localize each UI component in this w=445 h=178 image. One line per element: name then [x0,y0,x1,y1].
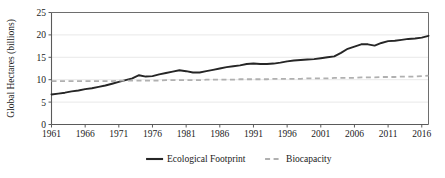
y-tick-label: 20 [37,30,47,40]
x-tick-label: 1976 [143,129,162,139]
y-tick-label: 10 [37,75,47,85]
x-tick-label: 1986 [210,129,229,139]
legend-label: Biocapacity [286,154,332,164]
x-tick-label: 2016 [412,129,431,139]
x-tick-label: 1971 [109,129,128,139]
x-tick-label: 2011 [379,129,398,139]
y-axis-title-text: Global Hectares (billions) [6,19,17,118]
data-series [52,36,429,95]
legend-item-ecological-footprint: Ecological Footprint [146,154,246,164]
x-axis-tick-labels: 1961196619711976198119861991199620012006… [42,129,432,139]
y-axis-tick-labels: 0510152025 [37,8,47,130]
x-tick-label: 2001 [311,129,330,139]
x-tick-label: 1961 [42,129,61,139]
x-tick-label: 1991 [244,129,263,139]
legend-item-biocapacity: Biocapacity [265,154,332,164]
series-line-ecological-footprint [52,36,429,95]
chart-legend: Ecological FootprintBiocapacity [146,154,332,164]
y-tick-label: 5 [41,98,46,108]
x-tick-label: 2006 [345,129,364,139]
ecological-footprint-chart: 0510152025 19611966197119761981198619911… [0,0,445,178]
y-tick-label: 15 [37,53,47,63]
plot-frame [52,13,429,125]
y-axis-title: Global Hectares (billions) [6,19,17,118]
y-tick-label: 25 [37,8,47,18]
x-tick-label: 1996 [278,129,297,139]
legend-label: Ecological Footprint [167,154,246,164]
x-tick-label: 1981 [177,129,196,139]
x-tick-label: 1966 [76,129,95,139]
chart-canvas: 0510152025 19611966197119761981198619911… [0,0,445,178]
series-line-biocapacity [52,76,429,81]
